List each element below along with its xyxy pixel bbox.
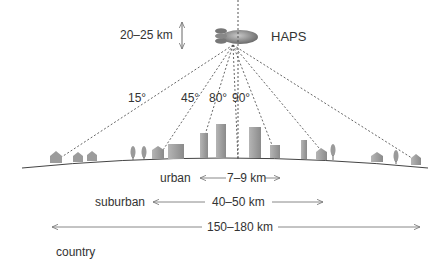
angle-15: 15° [128, 91, 146, 105]
suburban-range: 40–50 km [212, 195, 265, 209]
haps-airship-icon [215, 28, 258, 44]
country-range: 150–180 km [207, 220, 273, 234]
angle-45: 45° [181, 91, 199, 105]
haps-label: HAPS [271, 29, 306, 44]
rural-houses-left [50, 151, 97, 163]
angle-80: 80° [209, 91, 227, 105]
country-label: country [56, 245, 95, 259]
suburban-label: suburban [95, 195, 145, 209]
altitude-label: 20–25 km [120, 28, 173, 42]
urban-label: urban [160, 171, 191, 185]
angle-90: 90° [232, 91, 250, 105]
urban-range: 7–9 km [227, 171, 266, 185]
